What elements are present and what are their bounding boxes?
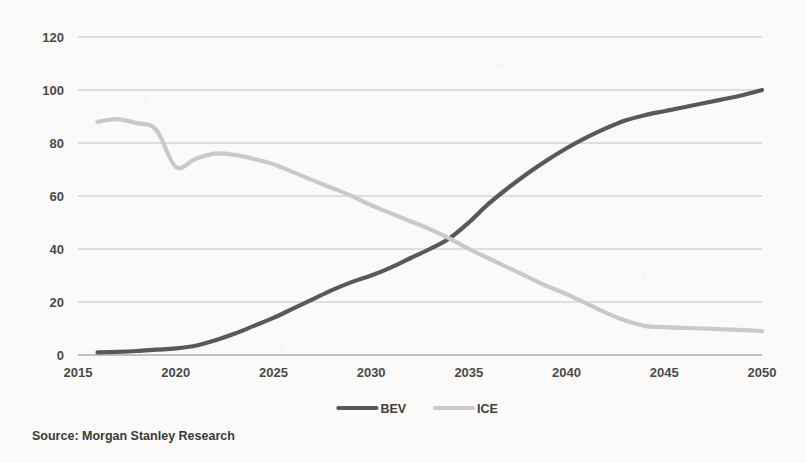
legend-label-bev: BEV	[380, 402, 406, 416]
source-caption: Source: Morgan Stanley Research	[32, 429, 235, 443]
chart-legend: BEVICE	[338, 402, 497, 416]
series-line-ice	[98, 119, 762, 331]
x-tick-label: 2040	[552, 365, 581, 380]
y-tick-label: 100	[42, 83, 64, 98]
x-tick-label: 2015	[64, 365, 93, 380]
legend-label-ice: ICE	[477, 402, 498, 416]
x-tick-label: 2045	[650, 365, 679, 380]
y-tick-label: 20	[50, 295, 64, 310]
y-tick-label: 80	[50, 136, 64, 151]
x-tick-label: 2030	[357, 365, 386, 380]
y-axis-tick-labels: 020406080100120	[42, 30, 64, 363]
y-tick-label: 0	[57, 348, 64, 363]
y-tick-label: 40	[50, 242, 64, 257]
x-tick-label: 2050	[748, 365, 777, 380]
x-tick-label: 2035	[454, 365, 483, 380]
y-tick-label: 120	[42, 30, 64, 45]
legend-item-ice[interactable]: ICE	[435, 402, 498, 416]
x-tick-label: 2020	[161, 365, 190, 380]
series-line-bev	[98, 90, 762, 352]
chart-container: 020406080100120 201520202025203020352040…	[0, 0, 806, 463]
data-series-group	[98, 90, 762, 352]
y-tick-label: 60	[50, 189, 64, 204]
x-tick-label: 2025	[259, 365, 288, 380]
legend-item-bev[interactable]: BEV	[338, 402, 406, 416]
gridlines-group	[78, 37, 762, 355]
line-chart: 020406080100120 201520202025203020352040…	[0, 0, 806, 463]
x-axis-tick-labels: 20152020202520302035204020452050	[64, 365, 777, 380]
